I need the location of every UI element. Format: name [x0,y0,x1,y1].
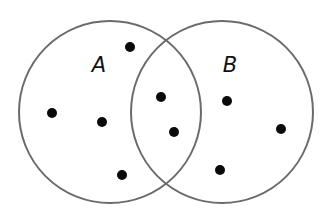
element-dot [215,165,225,175]
set-circles [19,21,313,203]
venn-diagram: AB [0,0,331,212]
element-dot [156,92,166,102]
set-labels: AB [90,53,237,77]
set-a-label: A [90,53,106,77]
element-dot [169,127,179,137]
element-dot [97,117,107,127]
set-elements [47,42,286,180]
set-b-label: B [223,53,237,77]
set-a-circle [19,21,201,203]
element-dot [222,96,232,106]
set-b-circle [131,21,313,203]
element-dot [47,108,57,118]
element-dot [276,124,286,134]
element-dot [125,42,135,52]
element-dot [117,170,127,180]
